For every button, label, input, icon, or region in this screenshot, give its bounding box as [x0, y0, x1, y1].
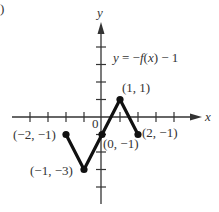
y-axis-arrow-icon: [98, 22, 105, 34]
point-label: (−1, −3): [30, 163, 73, 178]
point-neg1-neg3: [80, 166, 87, 173]
point-neg2-neg1: [62, 131, 69, 138]
point-label: (2, −1): [142, 125, 178, 140]
equation-label: y = −f(x) − 1: [111, 50, 178, 65]
x-axis-arrow-icon: [190, 114, 202, 121]
data-points: [62, 96, 141, 173]
point-label: (1, 1): [122, 80, 150, 95]
x-axis-label: x: [204, 109, 211, 124]
y-axis: y: [95, 5, 106, 204]
panel-label: ): [0, 1, 4, 16]
point-label: (0, −1): [103, 136, 139, 151]
y-axis-label: y: [95, 5, 103, 20]
point-1-1: [116, 96, 123, 103]
point-label: (−2, −1): [13, 127, 56, 142]
function-graph: ) x y 0: [0, 0, 219, 212]
origin-label: 0: [92, 116, 99, 131]
